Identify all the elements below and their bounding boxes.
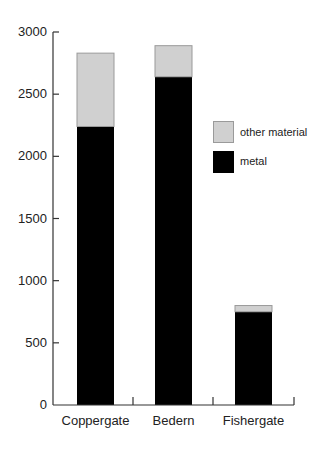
legend-label-metal: metal (240, 155, 267, 167)
legend-swatch-metal (213, 151, 234, 173)
plot-area (0, 0, 319, 453)
y-tick-label: 3000 (3, 25, 47, 39)
legend-swatch-other-material (213, 121, 234, 143)
y-tick-label: 0 (3, 398, 47, 412)
stacked-bar-chart: 050010001500200025003000 CoppergateBeder… (0, 0, 319, 453)
bar-fishergate-metal (235, 312, 272, 405)
x-tick-label-coppergate: Coppergate (51, 414, 141, 428)
bar-bedern-metal (155, 77, 192, 405)
bar-bedern-other-material (155, 46, 192, 77)
legend-label-other-material: other material (240, 126, 307, 138)
y-tick-label: 500 (3, 336, 47, 350)
x-tick-label-bedern: Bedern (129, 414, 219, 428)
bar-coppergate-other-material (77, 53, 114, 126)
y-tick-label: 2000 (3, 149, 47, 163)
y-tick-label: 2500 (3, 87, 47, 101)
bar-coppergate-metal (77, 126, 114, 405)
x-tick-label-fishergate: Fishergate (209, 414, 299, 428)
y-tick-label: 1000 (3, 274, 47, 288)
bar-fishergate-other-material (235, 306, 272, 312)
y-tick-label: 1500 (3, 212, 47, 226)
